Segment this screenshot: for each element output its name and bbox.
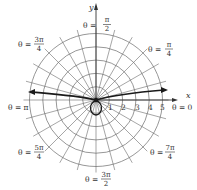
svg-text:θ = 0: θ = 0 — [172, 103, 193, 112]
label-theta-3pi-4: θ = 3π 4 — [18, 36, 44, 53]
label-theta-pi-4: θ = π 4 — [148, 41, 173, 58]
label-theta-7pi-4: θ = 7π 4 — [150, 144, 175, 161]
curve-left-arrow-icon — [28, 89, 35, 95]
label-theta-pi: θ = π — [8, 103, 29, 112]
grid-ray — [77, 100, 96, 170]
svg-text:θ = π: θ = π — [8, 103, 29, 112]
svg-text:θ =: θ = — [18, 148, 31, 157]
svg-text:4: 4 — [167, 50, 172, 58]
grid-ray — [33, 100, 96, 136]
tick-4: 4 — [148, 103, 153, 112]
svg-text:π: π — [167, 41, 172, 49]
grid-ray — [26, 100, 96, 119]
tick-5: 5 — [160, 103, 165, 112]
svg-text:3π: 3π — [34, 36, 43, 44]
polar-diagram: x y 1 2 3 4 5 θ = 0 θ = π θ = π 2 θ = π … — [0, 0, 197, 190]
label-theta-3pi-2: θ = 3π 2 — [85, 171, 111, 188]
grid-ray — [60, 37, 96, 100]
svg-text:θ =: θ = — [85, 175, 98, 184]
svg-text:4: 4 — [168, 153, 173, 161]
y-axis-label: y — [88, 3, 94, 12]
grid-ray — [96, 30, 115, 100]
grid-ray — [96, 100, 166, 119]
svg-text:4: 4 — [37, 45, 42, 53]
tick-1: 1 — [108, 103, 113, 112]
label-theta-0: θ = 0 — [172, 103, 193, 112]
svg-text:5π: 5π — [34, 144, 43, 152]
label-theta-pi-2: θ = π 2 — [83, 16, 111, 33]
svg-text:θ =: θ = — [150, 148, 163, 157]
svg-text:θ =: θ = — [148, 45, 161, 54]
y-axis-arrow-icon — [94, 3, 98, 10]
svg-text:2: 2 — [105, 25, 109, 33]
svg-text:3π: 3π — [101, 171, 110, 179]
x-axis-label: x — [186, 91, 191, 100]
tick-2: 2 — [121, 103, 126, 112]
svg-text:θ =: θ = — [83, 21, 96, 30]
tick-3: 3 — [135, 103, 140, 112]
svg-text:4: 4 — [37, 153, 42, 161]
grid-ray — [96, 37, 132, 100]
svg-text:θ =: θ = — [18, 40, 31, 49]
svg-text:π: π — [105, 16, 110, 24]
grid-ray — [77, 30, 96, 100]
x-axis-arrow-icon — [172, 98, 178, 102]
curve-left-branch — [32, 92, 96, 100]
curve-right-arrow-icon — [161, 87, 168, 93]
svg-text:2: 2 — [104, 180, 108, 188]
svg-text:7π: 7π — [165, 144, 174, 152]
label-theta-5pi-4: θ = 5π 4 — [18, 144, 44, 161]
